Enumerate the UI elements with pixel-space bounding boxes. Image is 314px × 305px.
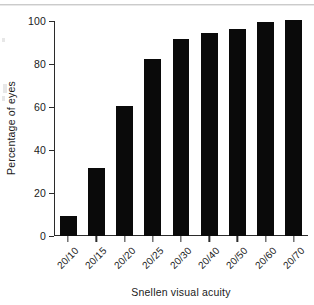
y-axis-tick-label: 40 xyxy=(34,144,46,156)
x-axis-tick-label: 20/50 xyxy=(224,245,250,271)
x-axis-tick xyxy=(96,236,97,242)
x-axis-tick xyxy=(237,236,238,242)
y-axis-tick-label: 20 xyxy=(34,187,46,199)
x-axis-tick xyxy=(67,236,68,242)
y-axis-tick xyxy=(49,236,54,237)
y-axis-tick-label: 100 xyxy=(28,15,46,27)
bar xyxy=(60,216,77,236)
plot-area: 020406080100 20/1020/1520/2020/2520/3020… xyxy=(54,21,308,236)
scan-artifact xyxy=(2,38,5,42)
y-axis-tick xyxy=(49,193,54,194)
x-axis-tick-label: 20/15 xyxy=(83,245,109,271)
y-axis-tick xyxy=(49,64,54,65)
x-axis-tick xyxy=(180,236,181,242)
x-axis-tick xyxy=(209,236,210,242)
y-axis-tick xyxy=(49,21,54,22)
bar xyxy=(116,106,133,236)
bar xyxy=(285,20,302,236)
x-axis-tick-label: 20/30 xyxy=(168,245,194,271)
bar xyxy=(201,33,218,236)
bar xyxy=(173,39,190,236)
bar xyxy=(229,29,246,236)
y-axis-tick xyxy=(49,150,54,151)
x-axis-tick xyxy=(152,236,153,242)
y-axis-tick xyxy=(49,107,54,108)
x-axis-tick-label: 20/60 xyxy=(253,245,279,271)
page-top-rule-shadow xyxy=(0,5,314,6)
bar xyxy=(144,59,161,236)
bar-series xyxy=(54,21,308,236)
x-axis-label: Snellen visual acuity xyxy=(54,286,308,298)
x-axis-tick xyxy=(265,236,266,242)
x-axis-tick-label: 20/70 xyxy=(281,245,307,271)
x-axis-tick xyxy=(293,236,294,242)
x-axis-tick-label: 20/10 xyxy=(55,245,81,271)
bar-chart-figure: Percentage of eyes 020406080100 20/1020/… xyxy=(0,0,314,305)
bar xyxy=(257,22,274,236)
x-axis-tick-label: 20/25 xyxy=(140,245,166,271)
y-axis-tick-label: 0 xyxy=(40,230,46,242)
x-axis-tick-label: 20/40 xyxy=(196,245,222,271)
x-axis-tick xyxy=(124,236,125,242)
x-axis-tick-label: 20/20 xyxy=(111,245,137,271)
bar xyxy=(88,168,105,236)
y-axis-label: Percentage of eyes xyxy=(5,81,17,175)
y-axis-tick-label: 60 xyxy=(34,101,46,113)
y-axis-tick-label: 80 xyxy=(34,58,46,70)
